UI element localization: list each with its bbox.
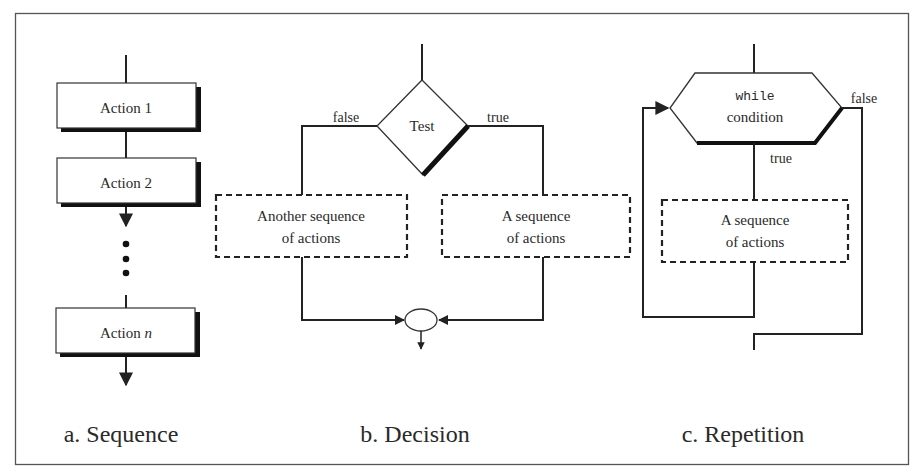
action-box-2: Action 2 (57, 158, 201, 207)
merge-left-line (302, 257, 404, 320)
svg-text:of actions: of actions (282, 230, 341, 246)
svg-text:A sequence: A sequence (721, 212, 790, 228)
merge-connector (405, 309, 437, 331)
false-label: false (851, 91, 877, 106)
action-n-label: Action (100, 325, 141, 341)
svg-text:Action 2: Action 2 (100, 175, 152, 191)
action-1-label: Action (100, 100, 141, 116)
test-diamond: Test (377, 80, 468, 175)
flowchart-figure: Action 1 Action 2 Action (0, 0, 923, 473)
false-branch-line (302, 126, 377, 195)
svg-text:of actions: of actions (507, 230, 566, 246)
while-hexagon: while condition (670, 73, 842, 143)
caption-sequence: a. Sequence (64, 421, 179, 447)
true-sequence-box: A sequence of actions (442, 195, 630, 257)
action-box-1: Action 1 (57, 83, 201, 132)
loop-body-box: A sequence of actions (662, 200, 848, 262)
caption-repetition: c. Repetition (682, 421, 805, 447)
condition-label: condition (727, 109, 784, 125)
false-sequence-box: Another sequence of actions (216, 195, 407, 257)
ellipsis-dots (123, 241, 130, 277)
action-2-label: Action (100, 175, 141, 191)
sequence-panel: Action 1 Action 2 Action (56, 55, 201, 447)
merge-right-line (439, 257, 543, 320)
true-label: true (770, 151, 792, 166)
svg-text:of actions: of actions (726, 234, 785, 250)
repetition-panel: while condition true A sequence of actio… (643, 44, 877, 447)
svg-text:Action 1: Action 1 (100, 100, 152, 116)
action-box-n: Action n (56, 308, 200, 357)
svg-text:Action n: Action n (100, 325, 152, 341)
svg-text:A sequence: A sequence (502, 208, 571, 224)
caption-decision: b. Decision (360, 421, 469, 447)
true-branch-line (468, 126, 543, 195)
false-label: false (333, 110, 359, 125)
decision-panel: Test false true Another sequence of acti… (216, 44, 630, 447)
svg-text:Another sequence: Another sequence (257, 208, 365, 224)
while-keyword: while (735, 89, 774, 104)
true-label: true (487, 110, 509, 125)
test-label: Test (410, 118, 436, 134)
